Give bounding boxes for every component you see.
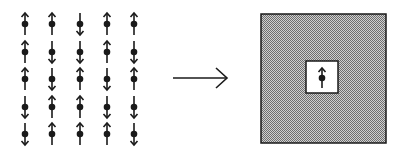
- spin-up-icon: [104, 41, 111, 63]
- spin-down-icon: [49, 68, 56, 90]
- spin-down-icon: [77, 41, 84, 63]
- spin-up-icon: [22, 68, 29, 90]
- spin-up-icon: [131, 13, 138, 35]
- spin-up-icon: [77, 68, 84, 90]
- spin-down-icon: [131, 96, 138, 118]
- spin-up-icon: [49, 96, 56, 118]
- spin-down-icon: [131, 41, 138, 63]
- spin-down-icon: [49, 41, 56, 63]
- spin-down-icon: [22, 123, 29, 145]
- spin-down-icon: [22, 96, 29, 118]
- block-spin-diagram: [0, 0, 406, 154]
- spin-up-icon: [22, 13, 29, 35]
- spin-up-icon: [131, 68, 138, 90]
- spin-up-icon: [77, 123, 84, 145]
- spin-up-icon: [22, 41, 29, 63]
- spin-down-icon: [131, 123, 138, 145]
- spin-up-icon: [49, 123, 56, 145]
- spin-down-icon: [104, 68, 111, 90]
- spin-up-icon: [104, 123, 111, 145]
- spin-lattice: [22, 13, 138, 145]
- spin-up-icon: [104, 13, 111, 35]
- spin-down-icon: [77, 13, 84, 35]
- spin-down-icon: [104, 96, 111, 118]
- transform-arrow-icon: [173, 68, 227, 88]
- spin-up-icon: [49, 13, 56, 35]
- spin-up-icon: [77, 96, 84, 118]
